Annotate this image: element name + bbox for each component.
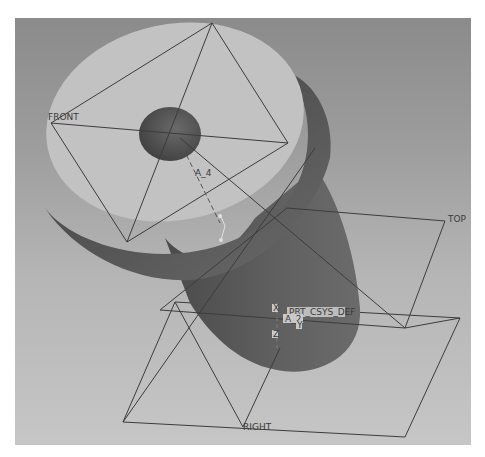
right-plane-label: RIGHT — [243, 422, 272, 432]
center-hole[interactable] — [139, 107, 201, 161]
axis-endpoint-handle[interactable] — [219, 238, 223, 242]
model-canvas[interactable]: FRONT TOP RIGHT A_4 PRT_CSYS_DEF A_2 X Y… — [15, 18, 471, 445]
csys-x-label: X — [273, 303, 279, 313]
csys-y-label: Y — [296, 320, 303, 330]
top-plane-label: TOP — [447, 214, 467, 224]
csys-z-label: Z — [273, 329, 279, 339]
graphics-viewport[interactable]: FRONT TOP RIGHT A_4 PRT_CSYS_DEF A_2 X Y… — [15, 18, 471, 445]
front-plane-label: FRONT — [48, 112, 79, 122]
axis-a4-label: A_4 — [195, 168, 212, 178]
axis-endpoint-handle[interactable] — [218, 214, 222, 218]
